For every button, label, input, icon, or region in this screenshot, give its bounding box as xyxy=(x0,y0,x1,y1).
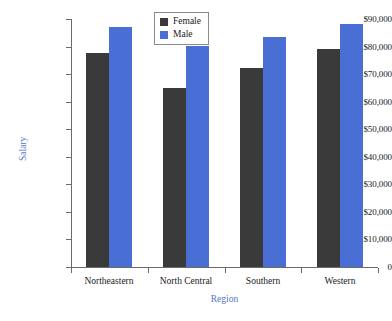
x-tick-label: Northeastern xyxy=(84,276,133,286)
x-tick-mark xyxy=(71,268,72,273)
legend-label-male: Male xyxy=(173,30,193,40)
legend-swatch-male xyxy=(160,31,168,39)
y-tick-mark xyxy=(66,212,71,213)
legend-item-male: Male xyxy=(160,28,201,41)
y-tick-mark xyxy=(66,19,71,20)
y-axis-title: Salary xyxy=(18,137,28,161)
x-axis-title: Region xyxy=(211,294,238,304)
bar-female-western xyxy=(317,49,340,267)
x-tick-mark xyxy=(148,268,149,273)
bar-chart: 0$10,000$20,000$30,000$40,000$50,000$60,… xyxy=(0,0,392,321)
bar-male-southern xyxy=(263,37,286,267)
chart-legend: Female Male xyxy=(154,12,209,45)
bar-male-north-central xyxy=(186,46,209,267)
y-tick-mark xyxy=(66,102,71,103)
legend-swatch-female xyxy=(160,18,168,26)
bar-female-north-central xyxy=(163,88,186,267)
legend-item-female: Female xyxy=(160,15,201,28)
bar-male-western xyxy=(340,24,363,267)
y-tick-label: $90,000 xyxy=(330,14,392,24)
y-tick-mark xyxy=(66,129,71,130)
x-tick-mark xyxy=(301,268,302,273)
y-tick-mark xyxy=(66,157,71,158)
y-tick-mark xyxy=(66,239,71,240)
x-tick-mark xyxy=(225,268,226,273)
bar-female-southern xyxy=(240,68,263,267)
y-axis-line xyxy=(71,19,72,268)
y-tick-mark xyxy=(66,47,71,48)
bar-male-northeastern xyxy=(109,27,132,267)
x-tick-mark xyxy=(378,268,379,273)
x-tick-label: Southern xyxy=(246,276,280,286)
x-tick-label: Western xyxy=(325,276,356,286)
bar-female-northeastern xyxy=(86,53,109,267)
y-tick-mark xyxy=(66,184,71,185)
x-tick-label: North Central xyxy=(160,276,213,286)
y-tick-mark xyxy=(66,74,71,75)
legend-label-female: Female xyxy=(173,17,201,27)
